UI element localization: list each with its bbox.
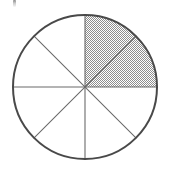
fraction-circle-figure: Circle divided into eight equal sectors … [0, 0, 180, 175]
diagram-ink-group [13, 15, 157, 159]
fraction-circle-svg [0, 0, 180, 175]
